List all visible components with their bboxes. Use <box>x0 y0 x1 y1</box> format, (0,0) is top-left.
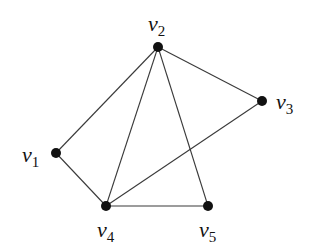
node-label-base: v <box>97 217 107 242</box>
node-label-base: v <box>148 11 158 36</box>
node-label-subscript: 5 <box>209 229 217 245</box>
node-label-subscript: 3 <box>286 101 294 117</box>
edge-v2-v4 <box>106 47 158 206</box>
node-v5 <box>203 201 213 211</box>
node-v4 <box>101 201 111 211</box>
node-v3 <box>257 96 267 106</box>
node-label-subscript: 4 <box>107 229 115 245</box>
edge-v2-v3 <box>158 47 262 101</box>
node-label-base: v <box>22 142 32 167</box>
node-v2 <box>153 42 163 52</box>
nodes-group <box>51 42 267 211</box>
edge-v1-v4 <box>56 153 106 206</box>
graph-diagram: v1v2v3v4v5 <box>0 0 311 251</box>
edge-v2-v5 <box>158 47 208 206</box>
node-label-v5: v5 <box>199 217 216 245</box>
node-label-subscript: 1 <box>32 154 40 170</box>
node-v1 <box>51 148 61 158</box>
node-label-v2: v2 <box>148 11 165 39</box>
node-label-v4: v4 <box>97 217 115 245</box>
node-label-v1: v1 <box>22 142 39 170</box>
node-label-subscript: 2 <box>158 23 166 39</box>
node-label-base: v <box>199 217 209 242</box>
edge-v1-v2 <box>56 47 158 153</box>
edges-group <box>56 47 262 206</box>
node-label-v3: v3 <box>276 89 293 117</box>
edge-v3-v4 <box>106 101 262 206</box>
node-label-base: v <box>276 89 286 114</box>
